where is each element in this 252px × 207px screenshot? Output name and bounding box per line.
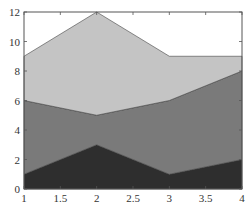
y-tick-label: 8: [15, 65, 21, 77]
y-tick-label: 4: [15, 124, 21, 136]
x-tick-label: 1.5: [53, 192, 67, 204]
x-tick-label: 3: [167, 192, 173, 204]
y-tick-label: 0: [15, 183, 21, 195]
x-tick-label: 2.5: [126, 192, 140, 204]
area-layers: [24, 12, 242, 189]
x-tick-label: 3.5: [199, 192, 213, 204]
y-tick-label: 12: [9, 6, 20, 18]
x-tick-label: 2: [94, 192, 100, 204]
x-tick-label: 4: [239, 192, 245, 204]
stacked-area-chart: 11.522.533.54 024681012: [0, 0, 252, 207]
y-tick-label: 10: [9, 36, 21, 48]
x-tick-label: 1: [21, 192, 27, 204]
y-tick-label: 6: [15, 95, 21, 107]
y-tick-label: 2: [15, 154, 21, 166]
